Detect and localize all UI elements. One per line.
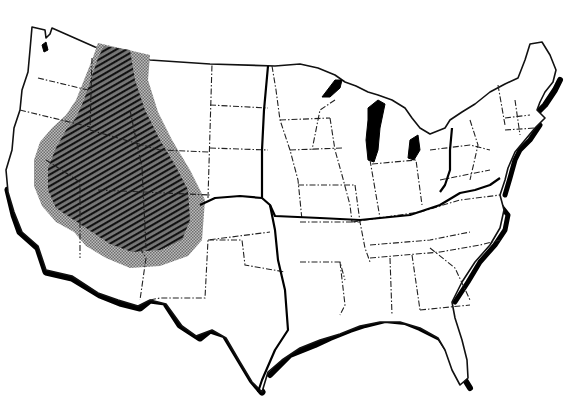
us-map — [0, 0, 570, 411]
us-map-svg — [0, 0, 570, 411]
